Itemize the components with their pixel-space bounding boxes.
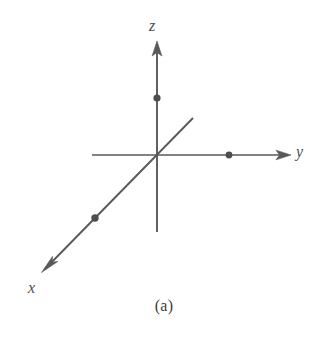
- x-axis-label: x: [28, 280, 35, 296]
- x-axis-line: [45, 118, 193, 269]
- axes-diagram: [0, 0, 328, 342]
- data-point-y: [226, 152, 233, 159]
- z-axis-label: z: [149, 18, 155, 34]
- y-axis-label: y: [296, 144, 303, 160]
- data-point-x: [91, 214, 98, 221]
- data-point-z: [153, 94, 160, 101]
- figure-3d-axes: z y x (a): [0, 0, 328, 342]
- figure-caption: (a): [0, 297, 328, 315]
